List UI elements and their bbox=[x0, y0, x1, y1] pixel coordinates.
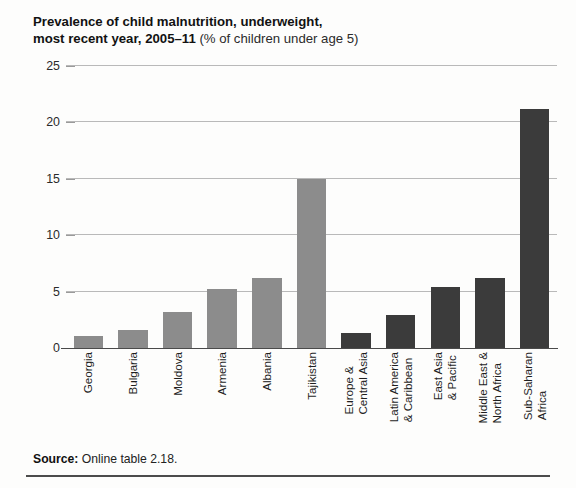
bar-sub-saharan-africa[interactable] bbox=[520, 109, 549, 348]
bar-middle-east-north-africa[interactable] bbox=[475, 278, 504, 348]
x-label-bulgaria: Bulgaria bbox=[126, 352, 140, 395]
x-label-georgia: Georgia bbox=[81, 352, 95, 393]
plot-area bbox=[66, 66, 557, 348]
x-label-sub-saharan-africa: Sub-Saharan Africa bbox=[521, 352, 548, 420]
chart-title-line-2-light: (% of children under age 5) bbox=[196, 31, 359, 46]
chart-title: Prevalence of child malnutrition, underw… bbox=[33, 14, 553, 48]
source-text: Online table 2.18. bbox=[78, 452, 177, 466]
y-tick-label-20: 20 bbox=[26, 115, 60, 129]
bar-moldova[interactable] bbox=[163, 312, 192, 348]
bar-tajikistan[interactable] bbox=[297, 179, 326, 348]
x-label-europe-central-asia: Europe & Central Asia bbox=[342, 352, 369, 415]
chart-title-line-2-strong: most recent year, 2005–11 bbox=[33, 31, 196, 46]
y-tick-label-25: 25 bbox=[26, 59, 60, 73]
y-axis-ticks: 0510152025 bbox=[20, 66, 60, 348]
y-tick-label-0: 0 bbox=[26, 341, 60, 355]
bar-latin-america-caribbean[interactable] bbox=[386, 315, 415, 348]
source-note: Source: Online table 2.18. bbox=[33, 452, 177, 466]
figure-page: Prevalence of child malnutrition, underw… bbox=[0, 0, 576, 488]
x-label-middle-east-north-africa: Middle East & North Africa bbox=[476, 352, 503, 424]
bar-europe-central-asia[interactable] bbox=[341, 333, 370, 348]
x-axis-category-labels: GeorgiaBulgariaMoldovaArmeniaAlbaniaTaji… bbox=[66, 352, 557, 444]
bar-georgia[interactable] bbox=[74, 336, 103, 348]
y-tick-label-15: 15 bbox=[26, 172, 60, 186]
x-label-armenia: Armenia bbox=[215, 352, 229, 395]
chart-title-line-1: Prevalence of child malnutrition, underw… bbox=[33, 14, 553, 31]
x-label-tajikistan: Tajikistan bbox=[305, 352, 319, 400]
source-label: Source: bbox=[33, 452, 78, 466]
chart-title-line-2: most recent year, 2005–11 (% of children… bbox=[33, 31, 553, 48]
bar-series bbox=[66, 66, 557, 348]
x-label-albania: Albania bbox=[260, 352, 274, 391]
x-axis-line bbox=[61, 348, 558, 349]
y-tick-label-10: 10 bbox=[26, 228, 60, 242]
bar-albania[interactable] bbox=[252, 278, 281, 348]
bar-east-asia-pacific[interactable] bbox=[431, 287, 460, 348]
bottom-rule bbox=[26, 475, 550, 477]
bar-bulgaria[interactable] bbox=[118, 330, 147, 348]
x-label-moldova: Moldova bbox=[171, 352, 185, 396]
x-label-latin-america-caribbean: Latin America & Caribbean bbox=[387, 352, 414, 422]
x-label-east-asia-pacific: East Asia & Pacific bbox=[432, 352, 459, 400]
bar-armenia[interactable] bbox=[207, 289, 236, 348]
y-tick-label-5: 5 bbox=[26, 285, 60, 299]
